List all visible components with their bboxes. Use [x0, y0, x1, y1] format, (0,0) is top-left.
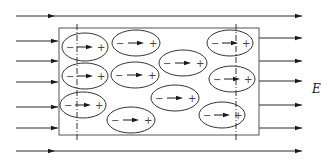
molecule: −+ — [159, 50, 207, 76]
arrowhead-icon — [51, 105, 58, 109]
molecule: −+ — [107, 107, 155, 133]
arrowhead-icon — [295, 14, 302, 18]
arrowhead-icon — [295, 103, 302, 107]
dipole-arrow-icon — [137, 41, 144, 45]
arrowhead-icon — [295, 126, 302, 130]
arrowhead-icon — [51, 80, 58, 84]
negative-charge: − — [116, 38, 124, 49]
dipole-arrow-icon — [184, 61, 191, 65]
field-line-outgoing — [259, 36, 302, 40]
arrowhead-icon — [295, 59, 302, 63]
molecule: −+ — [151, 85, 199, 111]
negative-charge: − — [203, 110, 211, 121]
positive-charge: + — [95, 100, 103, 111]
field-line-outgoing — [259, 126, 302, 130]
positive-charge: + — [188, 93, 196, 104]
negative-charge: − — [64, 100, 72, 111]
negative-charge: − — [211, 38, 219, 49]
dipole-arrow-icon — [136, 73, 143, 77]
field-line-incoming — [16, 105, 58, 109]
dipole-arrow-icon — [231, 41, 238, 45]
field-line-full — [16, 14, 302, 18]
arrowhead-icon — [295, 36, 302, 40]
molecule: −+ — [209, 66, 255, 92]
arrowhead-icon — [295, 79, 302, 83]
field-line-incoming — [16, 39, 58, 43]
negative-charge: − — [163, 58, 171, 69]
positive-charge: + — [234, 110, 242, 121]
field-line-outgoing — [259, 103, 302, 107]
arrowhead-icon — [51, 59, 58, 63]
positive-charge: + — [242, 38, 250, 49]
dipole-arrow-icon — [176, 96, 183, 100]
molecule: −+ — [62, 63, 108, 89]
positive-charge: + — [148, 70, 156, 81]
arrowhead-icon — [295, 149, 302, 153]
molecule: −+ — [112, 30, 160, 56]
dipole-arrow-icon — [223, 113, 230, 117]
positive-charge: + — [196, 58, 204, 69]
negative-charge: − — [111, 115, 119, 126]
molecule: −+ — [199, 102, 245, 128]
field-line-incoming — [16, 126, 58, 130]
field-line-outgoing — [259, 59, 302, 63]
molecule: −+ — [207, 30, 253, 56]
field-line-outgoing — [259, 79, 302, 83]
molecules: −+−+−+−+−+−+−+−+−+−+−+ — [60, 30, 255, 133]
dipole-arrow-icon — [86, 74, 93, 78]
polarization-diagram: −+−+−+−+−+−+−+−+−+−+−+ E — [0, 0, 331, 167]
molecule: −+ — [60, 92, 106, 118]
negative-charge: − — [115, 70, 123, 81]
positive-charge: + — [244, 74, 252, 85]
field-line-full — [16, 149, 302, 153]
molecule: −+ — [62, 33, 108, 61]
positive-charge: + — [97, 42, 105, 53]
molecule: −+ — [111, 62, 159, 88]
negative-charge: − — [155, 93, 163, 104]
dielectric-slab — [59, 28, 259, 135]
arrowhead-icon — [51, 126, 58, 130]
field-label-E: E — [311, 82, 321, 96]
arrowhead-icon — [48, 14, 55, 18]
negative-charge: − — [213, 74, 221, 85]
arrowhead-icon — [48, 149, 55, 153]
dipole-arrow-icon — [86, 45, 93, 49]
positive-charge: + — [97, 71, 105, 82]
positive-charge: + — [144, 115, 152, 126]
dipole-arrow-icon — [132, 118, 139, 122]
field-line-incoming — [16, 80, 58, 84]
negative-charge: − — [66, 42, 74, 53]
negative-charge: − — [66, 71, 74, 82]
field-line-incoming — [16, 59, 58, 63]
dipole-arrow-icon — [84, 103, 91, 107]
arrowhead-icon — [51, 39, 58, 43]
positive-charge: + — [149, 38, 157, 49]
